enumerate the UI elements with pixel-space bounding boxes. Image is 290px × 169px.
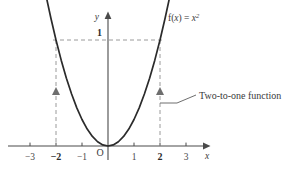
x-tick-label-1: 1 — [132, 152, 137, 162]
x-tick-label-2: 2 — [158, 151, 163, 162]
x-tick-label--1: −1 — [77, 152, 87, 162]
x-tick-label-3: 3 — [184, 152, 189, 162]
origin-label: O — [96, 147, 103, 158]
y-axis-label: y — [94, 12, 100, 22]
function-label: f(x) = x2 — [168, 12, 200, 25]
figure-container: f(x) = x2 y x O 1 −3 −2 −1 1 2 3 Two-to-… — [0, 0, 290, 169]
figure-background — [0, 0, 290, 169]
x-tick-label--3: −3 — [25, 152, 35, 162]
function-label-group: f(x) = x2 — [168, 12, 200, 25]
annotation-text: Two-to-one function — [199, 90, 281, 101]
y-tick-label-1: 1 — [97, 27, 102, 38]
x-tick-label--2: −2 — [51, 151, 62, 162]
x-axis-label: x — [204, 151, 210, 161]
